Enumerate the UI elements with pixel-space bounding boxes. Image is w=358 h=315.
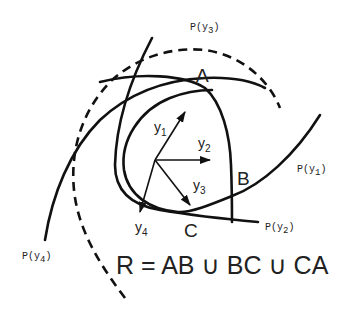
label-y3: y3 — [193, 177, 206, 196]
point-label-c: C — [184, 220, 198, 241]
label-y4: y4 — [135, 219, 148, 238]
vector-origin — [140, 112, 210, 212]
curve-label-p-y4: P(y4) — [22, 251, 51, 265]
formula: R = AB ∪ BC ∪ CA — [116, 251, 329, 279]
label-y2: y2 — [198, 135, 211, 154]
vector-y3-arrow — [155, 160, 190, 205]
diagram-canvas: y1 y2 y3 y4 A B C P(y3) P(y1) P(y2) P(y4… — [0, 0, 358, 315]
curve-label-p-y1: P(y1) — [297, 164, 326, 178]
curve-label-p-y2: P(y2) — [265, 222, 294, 236]
curve-p-y1 — [123, 90, 320, 212]
curve-ab-side — [100, 76, 232, 222]
point-label-a: A — [196, 65, 209, 86]
point-label-b: B — [237, 168, 250, 189]
curve-label-p-y3: P(y3) — [190, 22, 219, 36]
label-y1: y1 — [154, 119, 167, 138]
